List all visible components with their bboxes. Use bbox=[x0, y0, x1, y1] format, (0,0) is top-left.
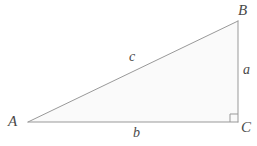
vertex-label-b: B bbox=[238, 3, 247, 18]
triangle-graphic bbox=[0, 0, 257, 146]
side-label-c: c bbox=[129, 50, 135, 64]
right-triangle-diagram: A B C a b c bbox=[0, 0, 257, 146]
vertex-label-a: A bbox=[8, 114, 17, 129]
side-label-a: a bbox=[243, 63, 250, 77]
side-label-b: b bbox=[133, 126, 140, 140]
vertex-label-c: C bbox=[241, 120, 251, 135]
